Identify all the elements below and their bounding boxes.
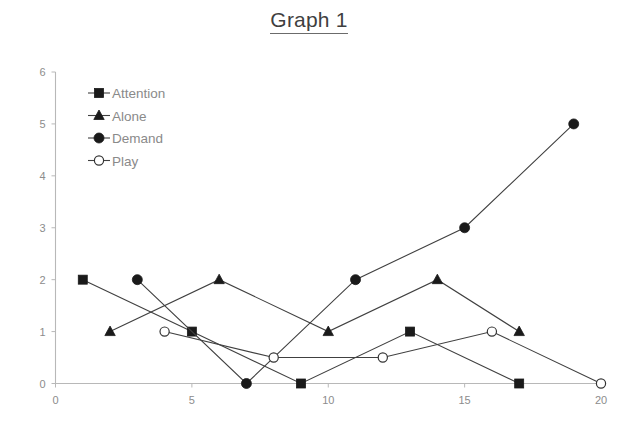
y-tick-label: 6: [39, 66, 45, 78]
chart-legend: AttentionAloneDemandPlay: [88, 86, 165, 169]
series-line-demand: [137, 124, 573, 384]
legend-label-play: Play: [112, 154, 139, 169]
legend-item-alone[interactable]: Alone: [88, 109, 147, 124]
data-point-demand: [241, 379, 251, 389]
x-tick-label: 5: [189, 394, 195, 406]
data-point-attention: [406, 327, 415, 336]
data-point-play: [378, 353, 387, 362]
legend-marker-alone: [94, 110, 104, 120]
series-demand: [132, 119, 578, 389]
y-tick-label: 1: [39, 326, 45, 338]
legend-item-demand[interactable]: Demand: [88, 131, 163, 146]
x-tick-label: 20: [595, 394, 607, 406]
data-point-alone: [105, 326, 115, 336]
y-tick-label: 2: [39, 274, 45, 286]
x-tick-label: 10: [322, 394, 334, 406]
legend-marker-attention: [95, 89, 104, 98]
y-tick-label: 5: [39, 118, 45, 130]
x-tick-label: 0: [52, 394, 58, 406]
data-point-alone: [214, 274, 224, 284]
series-play: [160, 327, 606, 388]
series-group: [78, 119, 605, 389]
y-axis-tick-group: 0123456: [39, 66, 55, 390]
data-point-demand: [460, 223, 470, 233]
data-point-play: [596, 379, 605, 388]
data-point-demand: [132, 275, 142, 285]
legend-label-alone: Alone: [112, 109, 147, 124]
series-line-alone: [110, 280, 519, 332]
y-tick-label: 3: [39, 222, 45, 234]
data-point-demand: [351, 275, 361, 285]
data-point-play: [269, 353, 278, 362]
y-tick-label: 4: [39, 170, 45, 182]
data-point-alone: [432, 274, 442, 284]
data-point-demand: [569, 119, 579, 129]
chart-plot-area: 0123456 05101520 AttentionAloneDemandPla…: [0, 0, 618, 432]
legend-marker-play: [94, 156, 103, 165]
legend-marker-demand: [94, 133, 104, 143]
legend-label-attention: Attention: [112, 86, 165, 101]
chart-container: Graph 1 0123456 05101520 AttentionAloneD…: [0, 0, 618, 432]
legend-item-play[interactable]: Play: [88, 154, 139, 169]
legend-label-demand: Demand: [112, 131, 163, 146]
legend-item-attention[interactable]: Attention: [88, 86, 165, 101]
data-point-attention: [296, 379, 305, 388]
data-point-attention: [515, 379, 524, 388]
data-point-play: [160, 327, 169, 336]
data-point-alone: [323, 326, 333, 336]
y-tick-label: 0: [39, 378, 45, 390]
data-point-alone: [514, 326, 524, 336]
series-alone: [105, 274, 525, 335]
data-point-play: [487, 327, 496, 336]
data-point-attention: [78, 275, 87, 284]
x-tick-label: 15: [459, 394, 471, 406]
